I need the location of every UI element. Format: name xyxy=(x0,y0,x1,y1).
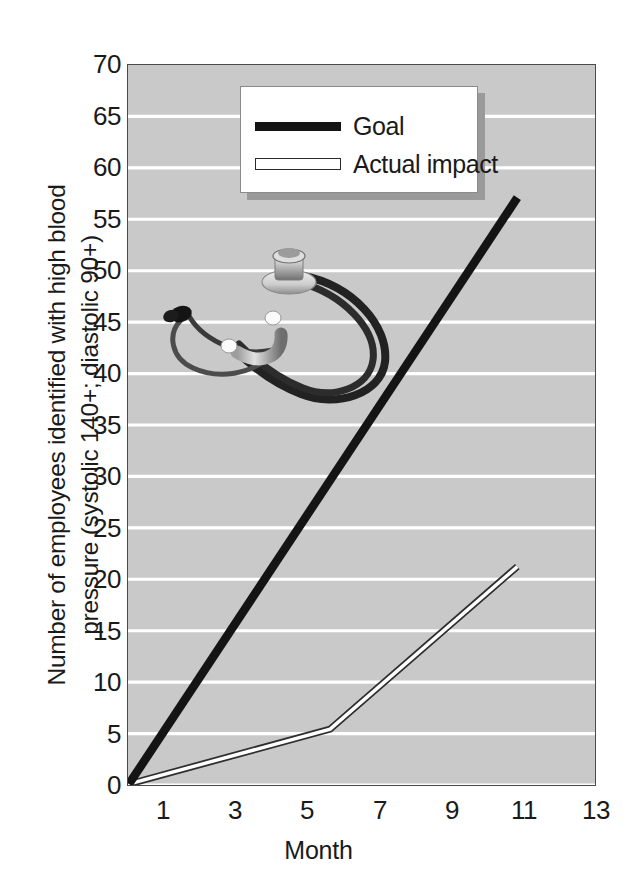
chart-figure: 70 65 60 55 50 45 40 35 30 25 20 15 10 5… xyxy=(0,0,637,891)
y-axis-title-line-2: pressure (systolic 140+; diastolic 90+) xyxy=(73,85,106,785)
x-axis-tick-labels: 1 3 5 7 9 11 13 xyxy=(0,795,637,835)
series-actual-impact-line xyxy=(129,567,517,784)
x-tick-5: 5 xyxy=(277,795,337,825)
x-tick-13: 13 xyxy=(566,795,626,825)
goal-line-swatch-icon xyxy=(255,122,341,131)
x-tick-1: 1 xyxy=(133,795,193,825)
x-tick-9: 9 xyxy=(422,795,482,825)
y-tick-70: 70 xyxy=(81,51,121,77)
x-axis-title: Month xyxy=(0,836,637,865)
actual-impact-line-swatch-icon xyxy=(255,158,341,170)
stethoscope-icon xyxy=(141,234,431,429)
x-tick-3: 3 xyxy=(205,795,265,825)
chart-legend[interactable]: Goal Actual impact xyxy=(240,86,478,193)
legend-label-actual-impact: Actual impact xyxy=(353,152,498,177)
legend-item-goal[interactable]: Goal xyxy=(255,109,404,143)
x-tick-11: 11 xyxy=(494,795,554,825)
y-axis-title-line-1: Number of employees identified with high… xyxy=(40,85,73,785)
y-axis-title: Number of employees identified with high… xyxy=(40,85,106,785)
legend-item-actual-impact[interactable]: Actual impact xyxy=(255,147,498,181)
legend-label-goal: Goal xyxy=(353,114,404,139)
x-tick-7: 7 xyxy=(350,795,410,825)
